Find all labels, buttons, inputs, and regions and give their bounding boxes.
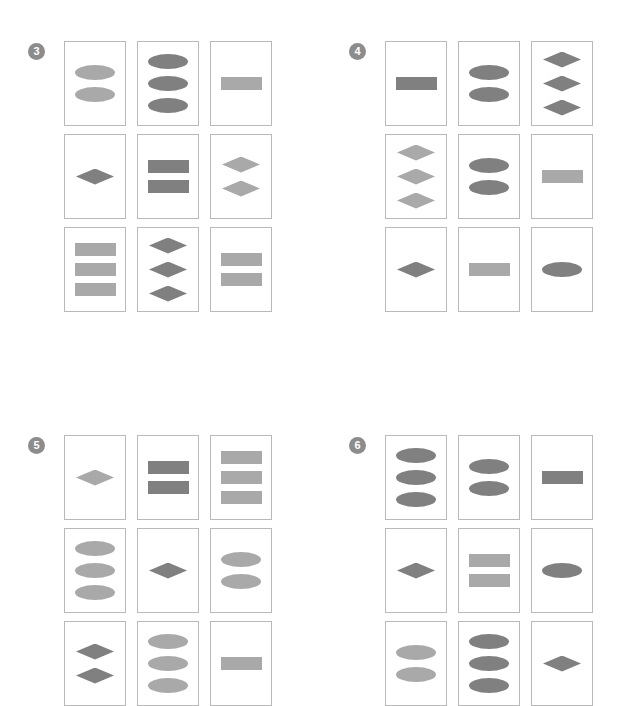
shape-rect [221, 451, 262, 464]
shape-diamond [148, 237, 188, 254]
puzzle-card[interactable] [64, 621, 126, 706]
shape-rect [542, 471, 583, 484]
diamond-glyph [543, 52, 581, 68]
shape-diamond [396, 168, 436, 185]
puzzle-card[interactable] [531, 435, 593, 520]
panel-number-badge: 4 [349, 43, 366, 60]
shape-rect [469, 574, 510, 587]
puzzle-card[interactable] [531, 621, 593, 706]
puzzle-card[interactable] [531, 41, 593, 126]
puzzle-card[interactable] [458, 134, 520, 219]
shape-ellipse [396, 645, 436, 660]
puzzle-card[interactable] [137, 435, 199, 520]
diamond-glyph [149, 286, 187, 302]
puzzle-card[interactable] [385, 41, 447, 126]
shape-diamond [542, 655, 582, 672]
diamond-glyph [222, 181, 260, 197]
shape-ellipse [221, 574, 261, 589]
shape-ellipse [75, 87, 115, 102]
panel-card-grid [64, 41, 272, 312]
puzzle-card[interactable] [137, 41, 199, 126]
puzzle-card[interactable] [385, 528, 447, 613]
shape-diamond [75, 643, 115, 660]
shape-rect [221, 491, 262, 504]
shape-rect [221, 471, 262, 484]
shape-diamond [542, 75, 582, 92]
shape-rect [75, 263, 116, 276]
diamond-glyph [397, 169, 435, 185]
puzzle-card[interactable] [210, 227, 272, 312]
diamond-glyph [397, 193, 435, 209]
shape-diamond [396, 192, 436, 209]
diamond-glyph [76, 644, 114, 660]
puzzle-card[interactable] [137, 134, 199, 219]
diamond-glyph [543, 656, 581, 672]
puzzle-card[interactable] [137, 528, 199, 613]
shape-ellipse [542, 262, 582, 277]
panel-number-badge: 5 [28, 437, 45, 454]
shape-rect [221, 77, 262, 90]
shape-ellipse [396, 470, 436, 485]
shape-diamond [148, 562, 188, 579]
puzzle-card[interactable] [210, 435, 272, 520]
diamond-glyph [76, 169, 114, 185]
shape-ellipse [396, 448, 436, 463]
puzzle-card[interactable] [210, 528, 272, 613]
puzzle-card[interactable] [210, 134, 272, 219]
puzzle-card[interactable] [137, 227, 199, 312]
panel-card-grid [385, 41, 593, 312]
shape-diamond [542, 51, 582, 68]
panel-number-badge: 6 [349, 437, 366, 454]
shape-ellipse [75, 65, 115, 80]
diamond-glyph [397, 563, 435, 579]
puzzle-card[interactable] [64, 435, 126, 520]
panel-card-grid [385, 435, 593, 706]
puzzle-card[interactable] [385, 227, 447, 312]
puzzle-card[interactable] [64, 41, 126, 126]
shape-ellipse [221, 552, 261, 567]
shape-diamond [148, 261, 188, 278]
puzzle-card[interactable] [64, 227, 126, 312]
diamond-glyph [397, 262, 435, 278]
diamond-glyph [222, 157, 260, 173]
shape-ellipse [469, 481, 509, 496]
puzzle-card[interactable] [385, 435, 447, 520]
puzzle-card[interactable] [210, 41, 272, 126]
diamond-glyph [397, 145, 435, 161]
shape-rect [469, 554, 510, 567]
puzzle-card[interactable] [385, 134, 447, 219]
puzzle-card[interactable] [531, 528, 593, 613]
shape-ellipse [469, 678, 509, 693]
shape-ellipse [542, 563, 582, 578]
shape-ellipse [75, 585, 115, 600]
shape-ellipse [148, 98, 188, 113]
puzzle-card[interactable] [531, 227, 593, 312]
panel-card-grid [64, 435, 272, 706]
shape-diamond [396, 144, 436, 161]
shape-ellipse [148, 76, 188, 91]
diamond-glyph [149, 238, 187, 254]
shape-ellipse [469, 87, 509, 102]
puzzle-card[interactable] [137, 621, 199, 706]
puzzle-card[interactable] [458, 227, 520, 312]
shape-ellipse [148, 656, 188, 671]
puzzle-card[interactable] [458, 621, 520, 706]
diamond-glyph [149, 262, 187, 278]
puzzle-card[interactable] [458, 41, 520, 126]
puzzle-card[interactable] [64, 134, 126, 219]
puzzle-card[interactable] [458, 528, 520, 613]
shape-diamond [75, 667, 115, 684]
shape-ellipse [148, 634, 188, 649]
puzzle-card[interactable] [64, 528, 126, 613]
diamond-glyph [149, 563, 187, 579]
shape-ellipse [469, 65, 509, 80]
shape-diamond [542, 99, 582, 116]
puzzle-card[interactable] [210, 621, 272, 706]
shape-diamond [396, 562, 436, 579]
puzzle-card[interactable] [458, 435, 520, 520]
puzzle-card[interactable] [531, 134, 593, 219]
shape-ellipse [396, 667, 436, 682]
puzzle-card[interactable] [385, 621, 447, 706]
shape-rect [148, 481, 189, 494]
shape-ellipse [469, 158, 509, 173]
